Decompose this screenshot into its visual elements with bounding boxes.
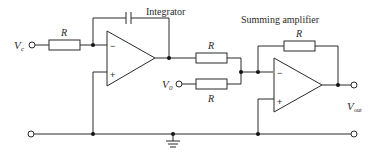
summing-resistor-top-label: R	[207, 40, 214, 51]
svg-text:0: 0	[169, 84, 173, 92]
node-ground-opamp1	[91, 132, 95, 136]
svg-text:c: c	[21, 45, 25, 53]
summing-resistor-top	[196, 53, 227, 63]
vc-input-label: V c	[14, 39, 25, 53]
node-summing-junction	[239, 70, 243, 74]
opamp1-noninverting-sign: +	[110, 70, 115, 80]
opamp1-inverting-sign: −	[110, 41, 115, 51]
summing-resistor-bottom-label: R	[207, 93, 214, 104]
node-output	[336, 83, 340, 87]
vc-input-terminal	[29, 42, 35, 48]
vout-label: V out	[347, 100, 362, 113]
input-resistor-label: R	[60, 27, 67, 38]
node-ground-opamp2	[256, 132, 260, 136]
vout-terminal	[351, 82, 357, 88]
feedback-resistor	[284, 41, 315, 51]
feedback-resistor-label: R	[295, 28, 302, 39]
circuit-diagram: Integrator Summing amplifier V c R − + R…	[0, 0, 373, 159]
summing-resistor-bottom	[196, 79, 227, 89]
ground-icon	[166, 134, 180, 147]
integrator-label: Integrator	[146, 6, 186, 17]
node-integrator-output	[167, 56, 171, 60]
input-resistor	[49, 40, 80, 50]
svg-text:out: out	[354, 107, 362, 113]
opamp2-inverting-sign: −	[277, 68, 282, 78]
ground-terminal-right	[351, 131, 357, 137]
summing-amplifier-label: Summing amplifier	[241, 14, 320, 25]
v0-input-terminal	[176, 81, 182, 87]
ground-terminal-left	[28, 131, 34, 137]
v0-input-label: V 0	[162, 78, 173, 92]
opamp2-noninverting-sign: +	[277, 97, 282, 107]
